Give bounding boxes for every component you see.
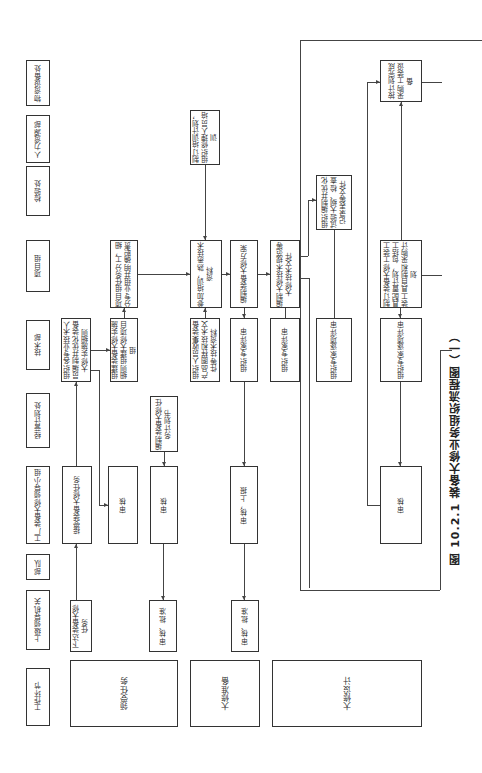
- arrow-head: [106, 348, 110, 352]
- arrow-head: [186, 272, 190, 276]
- connector: [300, 278, 309, 279]
- arrow-head: [242, 314, 246, 318]
- node-review-3: 审核: [380, 466, 422, 544]
- connector: [300, 40, 482, 41]
- header-business-planning: 经营计划处: [26, 393, 50, 448]
- header-technical-dept: 技术部: [26, 320, 50, 370]
- connector: [308, 200, 309, 256]
- connector: [205, 165, 206, 240]
- node-expert-review-1: 组织专家评审: [230, 318, 258, 382]
- arrow-head: [266, 272, 270, 276]
- node-review-1: 审核: [108, 466, 138, 544]
- header-project-team: 项目组: [26, 240, 50, 292]
- connector: [76, 382, 77, 466]
- header-superior-authority: 上级领导机关: [26, 590, 50, 650]
- connector: [401, 102, 402, 240]
- connector: [334, 230, 335, 318]
- header-inspection-dept: 检验处: [26, 166, 50, 216]
- arrow-head: [74, 382, 78, 386]
- connector: [163, 544, 164, 600]
- connector: [422, 275, 442, 276]
- node-review-report: 审核，上报: [230, 466, 258, 544]
- node-review-2: 审核: [150, 466, 178, 544]
- arrow-head: [162, 462, 166, 466]
- node-org-tech-staff: 组织各专业技术人员编制并优化装备大修实施细则: [61, 318, 91, 382]
- connector: [309, 278, 310, 588]
- node-expert-review-2: 组织专家评审: [270, 318, 300, 382]
- node-plan-book: 编制装备大修任务计划书: [150, 396, 178, 452]
- figure-caption: 图 10.2.1 装备大修业务组织流程图（一）: [448, 330, 464, 565]
- connector: [138, 274, 190, 275]
- node-compile-spec: 编制大修技术规范等大修技术文件: [270, 240, 300, 308]
- header-hr-dept: 人力资源部: [26, 115, 50, 163]
- connector: [422, 82, 442, 83]
- connector: [440, 350, 441, 590]
- arrow-head: [242, 462, 246, 466]
- stage-receive-task: 领受任务: [70, 660, 178, 727]
- node-expert-review-3: 组织专家逐项评审: [316, 318, 352, 382]
- arrow-head: [398, 314, 402, 318]
- arrow-head: [74, 544, 78, 548]
- node-approve-2: 审核、批准: [231, 600, 259, 652]
- header-troops: 部队: [26, 554, 50, 580]
- header-factory-leading-group: 工厂装备大修领导小组: [26, 466, 50, 544]
- arrow-head: [242, 596, 246, 600]
- node-familiarize: 参加培训，熟悉技术资料: [190, 240, 222, 308]
- connector: [367, 505, 380, 506]
- arrow-head: [376, 80, 380, 84]
- node-test-outline: 组织编制并优化试验大纲、检查记录表等文件: [316, 175, 352, 230]
- arrow-head: [203, 236, 207, 240]
- node-issue-task: 下达装备大修任务: [70, 600, 92, 652]
- connector: [99, 370, 100, 505]
- stage-overhaul-design: 大修设计: [272, 660, 422, 727]
- node-form-team: 组建装备大修实施细则组建大修项目组: [110, 318, 138, 382]
- connector: [300, 40, 301, 590]
- connector: [76, 544, 77, 600]
- node-compile-plan: 编制装备大修方案: [230, 240, 258, 308]
- arrow-head: [312, 198, 316, 202]
- node-split-tasks: 项目组任务分工，细分专业组并明确职责: [110, 240, 138, 308]
- arrow-head: [226, 272, 230, 276]
- arrow-head: [398, 462, 402, 466]
- arrow-head: [122, 308, 126, 312]
- connector: [300, 590, 440, 591]
- node-approve-1: 审核、批准: [149, 600, 177, 652]
- node-procure: 按计划完成采购工装设备: [380, 60, 422, 102]
- node-collect-docs: 组织人员收集装备产品图样和技术文件等技术资料: [190, 318, 220, 382]
- arrow-head: [104, 503, 108, 507]
- connector: [244, 382, 245, 466]
- connector: [367, 82, 368, 505]
- connector: [285, 308, 286, 318]
- node-accept-task: 接受装备大修任务: [62, 466, 92, 544]
- arrow-head: [161, 596, 165, 600]
- arrow-head: [203, 308, 207, 312]
- header-materials-dept: 物资设备处: [26, 60, 50, 106]
- arrow-head: [399, 102, 403, 106]
- stage-overhaul-prep: 大修准备: [190, 660, 260, 727]
- connector: [91, 370, 99, 371]
- node-tooling-plan: 制订装备大修工装工具配置计划，包括工装工具自制和采购计划: [380, 240, 422, 308]
- connector: [400, 382, 401, 466]
- node-expert-review-4: 组织专家逐项评审: [380, 318, 422, 382]
- connector: [300, 256, 308, 257]
- header-work-stage: 工作环节: [26, 668, 50, 726]
- connector: [244, 544, 245, 600]
- node-train-plan: 制订培训计划，组织修理人员培训: [190, 110, 220, 165]
